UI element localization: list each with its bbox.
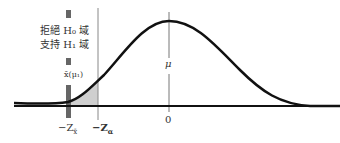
neg-z-alpha-subscript: α	[108, 127, 113, 136]
neg-z-alpha-text: −Z	[92, 122, 108, 133]
support-h1-label: 支持 H₁ 域	[40, 36, 89, 51]
zero-label: 0	[165, 114, 171, 125]
mu-label: μ	[165, 58, 172, 69]
neg-z-xbar-subscript: x̄	[73, 128, 77, 136]
xbar-marker-mid	[66, 58, 71, 65]
reject-h0-label: 拒絕 H₀ 域	[40, 22, 89, 37]
neg-z-xbar-label: −Zx̄	[58, 122, 77, 136]
xbar-marker-top	[66, 10, 71, 18]
xbar-mu1-label: x̄(μ₁)	[64, 70, 83, 79]
neg-z-xbar-text: −Z	[58, 122, 73, 133]
neg-z-alpha-label: −Zα	[92, 122, 113, 136]
